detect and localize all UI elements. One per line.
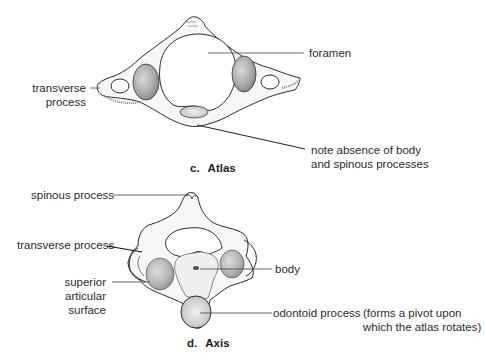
label-atlas-transverse-line2: process — [30, 95, 86, 109]
axis-right-articular — [220, 250, 244, 278]
label-superior-line2: articular — [40, 289, 106, 303]
atlas-anterior-arch — [180, 106, 208, 118]
axis-left-articular — [146, 258, 174, 290]
label-foramen: foramen — [309, 46, 351, 60]
axis-body-pit — [193, 266, 199, 270]
label-odontoid-note-line1: (forms a pivot upon — [363, 306, 461, 320]
axis-caption-name: Axis — [205, 337, 229, 349]
axis-caption-letter: d. — [187, 337, 197, 349]
label-note-line1: note absence of body — [311, 143, 421, 157]
label-atlas-transverse-line1: transverse — [30, 81, 86, 95]
atlas-left-transverse-foramen — [111, 79, 129, 93]
label-note-line2: and spinous processes — [311, 157, 429, 171]
atlas-caption-name: Atlas — [208, 162, 236, 174]
atlas-caption: c.Atlas — [190, 162, 236, 174]
label-axis-transverse-process: transverse process — [17, 238, 114, 252]
label-odontoid-process: odontoid process — [273, 306, 361, 320]
axis-caption: d.Axis — [187, 337, 230, 349]
atlas-right-transverse-foramen — [261, 75, 279, 89]
axis-odontoid-shape — [181, 296, 211, 328]
label-superior-line3: surface — [40, 303, 106, 317]
atlas-foramen-shape — [160, 34, 237, 110]
atlas-right-facet — [232, 56, 256, 92]
label-odontoid-note-line2: which the atlas rotates) — [363, 320, 481, 334]
axis-bone — [128, 192, 256, 328]
atlas-left-facet — [133, 64, 159, 100]
atlas-caption-letter: c. — [190, 162, 200, 174]
label-body: body — [275, 262, 300, 276]
label-superior-line1: superior — [40, 275, 106, 289]
atlas-bone — [97, 17, 300, 127]
label-spinous-process: spinous process — [31, 188, 114, 202]
leader-note-absence — [197, 125, 305, 149]
anatomy-figure: foramen transverse process note absence … — [0, 0, 486, 361]
